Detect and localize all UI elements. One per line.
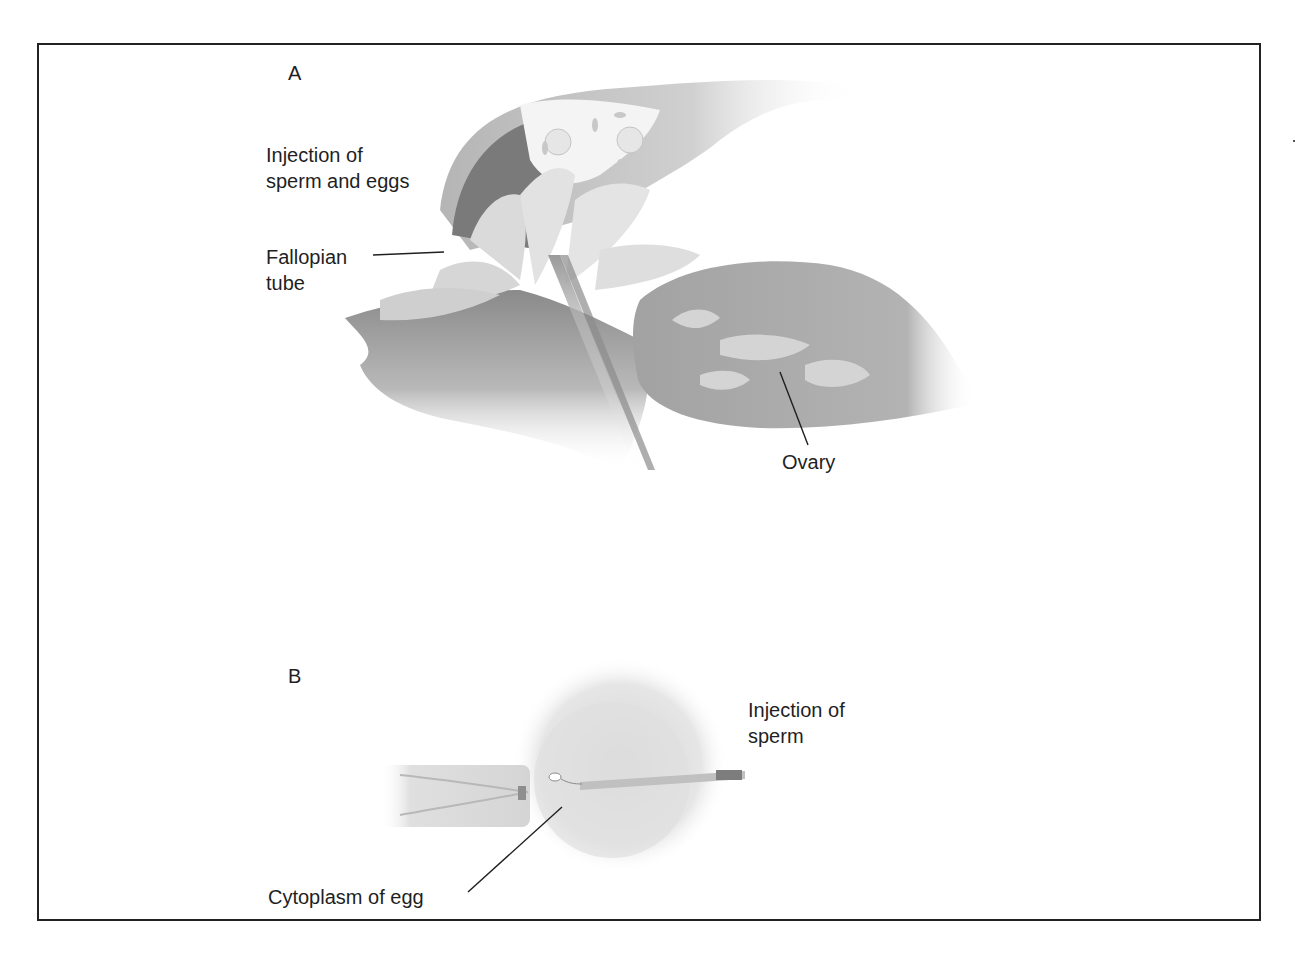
ovary-drawing <box>633 261 975 428</box>
label-fallopian-tube: Fallopian tube <box>266 244 347 296</box>
fallopian-leader-line <box>373 252 444 255</box>
panel-a-letter: A <box>288 62 301 85</box>
label-injection-sperm-eggs: Injection of sperm and eggs <box>266 142 409 194</box>
illustration <box>0 0 1295 960</box>
label-ovary: Ovary <box>782 449 835 475</box>
panel-b-letter: B <box>288 665 301 688</box>
label-injection-sperm: Injection of sperm <box>748 697 845 749</box>
holding-pipette <box>380 765 530 827</box>
egg-drawing <box>512 657 728 873</box>
label-cytoplasm-egg: Cytoplasm of egg <box>268 884 424 910</box>
